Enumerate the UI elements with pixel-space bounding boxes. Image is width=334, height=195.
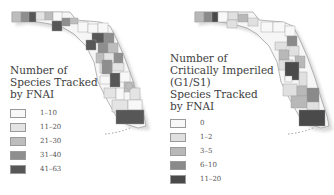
- legend-item: 6–10: [170, 158, 221, 172]
- legend-title: Number of Species Tracked by FNAI: [10, 64, 98, 100]
- legend-swatch: [170, 161, 186, 170]
- legend-swatch: [10, 123, 26, 132]
- legend-item: 1–2: [170, 130, 221, 144]
- legend-swatch: [170, 175, 186, 184]
- legend-swatch: [10, 137, 26, 146]
- legend-swatch: [10, 109, 26, 118]
- legend-item: 3–5: [170, 144, 221, 158]
- legend-item: 11–20: [10, 120, 61, 134]
- legend-item: 0: [170, 116, 221, 130]
- legend-swatch: [170, 133, 186, 142]
- legend-item: 1–10: [10, 106, 61, 120]
- legend: 1–10 11–20 21–30 31–40 41–63: [10, 106, 61, 176]
- legend-item: 21–30: [10, 134, 61, 148]
- legend-swatch: [10, 151, 26, 160]
- legend-swatch: [10, 165, 26, 174]
- legend-item: 41–63: [10, 162, 61, 176]
- legend-item: 11–20: [170, 172, 221, 186]
- legend-swatch: [170, 119, 186, 128]
- legend-item: 31–40: [10, 148, 61, 162]
- legend-title: Number of Critically Imperiled (G1/S1) S…: [170, 52, 274, 112]
- legend-swatch: [170, 147, 186, 156]
- species-tracked-map-panel: Number of Species Tracked by FNAI 1–10 1…: [0, 0, 167, 195]
- critically-imperiled-map-panel: Number of Critically Imperiled (G1/S1) S…: [167, 0, 334, 195]
- legend: 0 1–2 3–5 6–10 11–20: [170, 116, 221, 186]
